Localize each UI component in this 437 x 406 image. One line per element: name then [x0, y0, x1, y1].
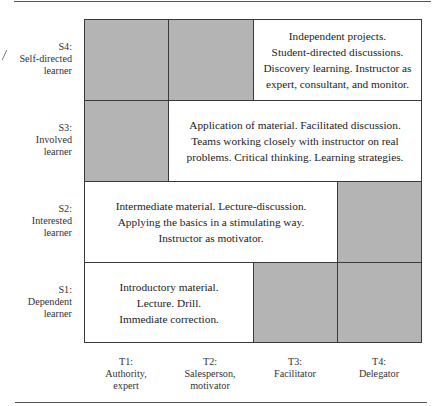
col-desc-2: expert	[84, 380, 168, 392]
row-desc-1: Self-directed	[0, 53, 72, 65]
col-desc-1: Salesperson,	[168, 368, 252, 380]
row-label-s2: S2: Interested learner	[0, 203, 72, 239]
row-desc-2: learner	[0, 227, 72, 239]
row-desc-2: learner	[0, 65, 72, 77]
row-code: S4:	[0, 41, 72, 53]
col-label-t1: T1: Authority, expert	[84, 356, 168, 392]
col-code: T1:	[84, 356, 168, 368]
cell-s3-t2-t4-text: Application of material. Facilitated dis…	[168, 100, 422, 182]
row-desc-1: Dependent	[0, 296, 72, 308]
row-label-s1: S1: Dependent learner	[0, 284, 72, 320]
cell-s1-t4-shaded	[337, 262, 422, 343]
bottom-rule	[15, 402, 427, 403]
cell-text-line: Discovery learning. Instructor as	[263, 60, 411, 76]
cell-text-line: Introductory material.	[119, 279, 219, 295]
col-desc-2: motivator	[168, 380, 252, 392]
cell-text-line: Instructor as motivator.	[116, 230, 307, 246]
row-code: S3:	[0, 122, 72, 134]
cell-text-line: problems. Critical thinking. Learning st…	[187, 149, 404, 165]
cell-text-line: Application of material. Facilitated dis…	[187, 117, 404, 133]
cell-text-line: Lecture. Drill.	[119, 295, 219, 311]
row-desc-1: Interested	[0, 215, 72, 227]
col-code: T2:	[168, 356, 252, 368]
cell-text-line: Applying the basics in a stimulating way…	[116, 214, 307, 230]
col-desc-1: Facilitator	[253, 368, 337, 380]
row-label-s3: S3: Involved learner	[0, 122, 72, 158]
cell-s2-t1-t3-text: Intermediate material. Lecture-discussio…	[84, 181, 338, 263]
matrix-grid: Independent projects. Student-directed d…	[84, 19, 421, 343]
row-desc-2: learner	[0, 308, 72, 320]
cell-text-line: Teams working closely with instructor on…	[187, 133, 404, 149]
top-rule	[14, 1, 431, 2]
cell-text-line: Intermediate material. Lecture-discussio…	[116, 198, 307, 214]
cell-s4-t3-t4-text: Independent projects. Student-directed d…	[253, 19, 422, 101]
cell-s1-t3-shaded	[253, 262, 338, 343]
row-desc-1: Involved	[0, 134, 72, 146]
cell-s2-t4-shaded	[337, 181, 422, 263]
row-desc-2: learner	[0, 146, 72, 158]
col-label-t3: T3: Facilitator	[253, 356, 337, 380]
cell-text-line: expert, consultant, and monitor.	[263, 76, 411, 92]
col-label-t4: T4: Delegator	[337, 356, 421, 380]
cell-s3-t1-shaded	[84, 100, 169, 182]
col-desc-1: Authority,	[84, 368, 168, 380]
row-label-s4: S4: Self-directed learner	[0, 41, 72, 77]
cell-s4-t1-shaded	[84, 19, 169, 101]
cell-text-line: Immediate correction.	[119, 311, 219, 327]
row-code: S1:	[0, 284, 72, 296]
row-code: S2:	[0, 203, 72, 215]
cell-text-line: Independent projects.	[263, 28, 411, 44]
col-label-t2: T2: Salesperson, motivator	[168, 356, 252, 392]
cell-text-line: Student-directed discussions.	[263, 44, 411, 60]
col-code: T4:	[337, 356, 421, 368]
col-desc-1: Delegator	[337, 368, 421, 380]
col-code: T3:	[253, 356, 337, 368]
cell-s1-t1-t2-text: Introductory material. Lecture. Drill. I…	[84, 262, 254, 343]
cell-s4-t2-shaded	[168, 19, 254, 101]
